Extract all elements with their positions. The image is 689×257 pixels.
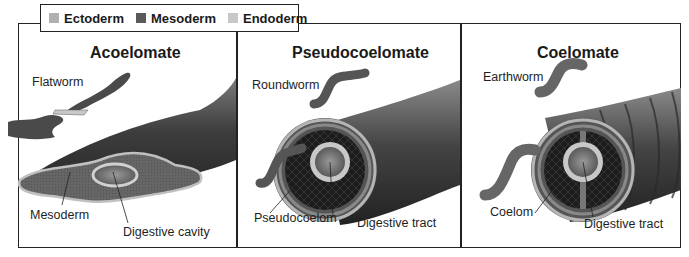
ectoderm-swatch-icon xyxy=(49,13,59,23)
organism-label-flatworm: Flatworm xyxy=(32,75,83,89)
organism-label-roundworm: Roundworm xyxy=(252,78,319,92)
legend-label: Endoderm xyxy=(243,11,307,26)
endoderm-swatch-icon xyxy=(228,13,238,23)
pseudocoelomate-illustration xyxy=(260,73,460,225)
panel-title-pseudocoelomate: Pseudocoelomate xyxy=(292,44,429,62)
structure-label-mesoderm: Mesoderm xyxy=(30,208,89,222)
structure-label-digestive-tract: Digestive tract xyxy=(584,217,663,231)
organism-label-earthworm: Earthworm xyxy=(483,70,543,84)
legend-item-mesoderm: Mesoderm xyxy=(136,11,216,26)
mesoderm-swatch-icon xyxy=(136,13,146,23)
legend-item-ectoderm: Ectoderm xyxy=(49,11,124,26)
structure-label-digestive-tract: Digestive tract xyxy=(357,216,436,230)
structure-label-coelom: Coelom xyxy=(490,205,533,219)
legend: Ectoderm Mesoderm Endoderm xyxy=(40,4,299,32)
panel-title-coelomate: Coelomate xyxy=(537,44,619,62)
coelomate-illustration xyxy=(485,64,681,222)
legend-label: Mesoderm xyxy=(151,11,216,26)
legend-label: Ectoderm xyxy=(64,11,124,26)
structure-label-digestive-cavity: Digestive cavity xyxy=(123,225,210,239)
acoelomate-illustration xyxy=(8,73,236,223)
structure-label-pseudocoelom: Pseudocoelom xyxy=(254,211,337,225)
legend-item-endoderm: Endoderm xyxy=(228,11,307,26)
panel-title-acoelomate: Acoelomate xyxy=(90,44,181,62)
